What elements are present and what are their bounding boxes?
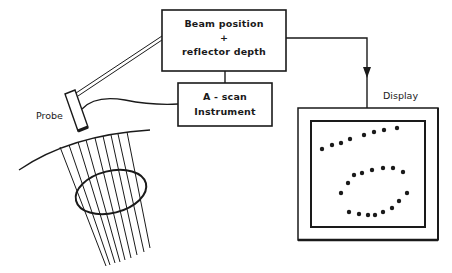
beam-line (60, 147, 106, 266)
echo-dot (391, 166, 395, 170)
arrowhead-down-icon (363, 67, 371, 78)
echo-dot (362, 133, 366, 137)
echo-dot (382, 128, 386, 132)
echo-dot (348, 137, 352, 141)
display-echo-dots (320, 126, 409, 217)
ascan-instrument-block: A - scan Instrument (178, 83, 272, 126)
echo-dot (352, 173, 356, 177)
beam-line (95, 138, 125, 260)
echo-dot (397, 199, 401, 203)
beam-line (78, 142, 115, 263)
echo-dot (405, 191, 409, 195)
beam-to-display-arrow (286, 38, 371, 108)
echo-dot (390, 206, 394, 210)
echo-dot (401, 170, 405, 174)
echo-dot (320, 147, 324, 151)
echo-dot (347, 210, 351, 214)
beam-position-label-plus: + (220, 32, 228, 43)
echo-dot (360, 171, 364, 175)
echo-dot (381, 166, 385, 170)
echo-dot (373, 213, 377, 217)
echo-dot (339, 191, 343, 195)
beam-position-label-line3: reflector depth (182, 46, 266, 57)
display-monitor (298, 108, 438, 240)
probe-body (65, 90, 88, 131)
ultrasonic-beam-lines (60, 132, 150, 266)
beam-line (111, 135, 137, 255)
echo-dot (372, 130, 376, 134)
probe-label: Probe (36, 110, 63, 121)
probe (65, 90, 88, 131)
beam-position-label-line1: Beam position (184, 18, 263, 29)
echo-dot (330, 143, 334, 147)
echo-dot (370, 168, 374, 172)
echo-dot (339, 141, 343, 145)
display-screen (311, 121, 425, 227)
beam-position-block: Beam position + reflector depth (162, 10, 286, 71)
echo-dot (366, 213, 370, 217)
probe-position-link (76, 36, 162, 96)
display-label: Display (383, 90, 418, 101)
probe-cable (82, 99, 178, 109)
ascan-label-line2: Instrument (194, 106, 256, 117)
beam-line (103, 136, 131, 258)
ultrasonic-scan-diagram: Beam position + reflector depth A - scan… (0, 0, 452, 273)
echo-dot (346, 181, 350, 185)
echo-dot (381, 210, 385, 214)
echo-dot (357, 212, 361, 216)
ascan-label-line1: A - scan (203, 91, 247, 102)
echo-dot (395, 126, 399, 130)
